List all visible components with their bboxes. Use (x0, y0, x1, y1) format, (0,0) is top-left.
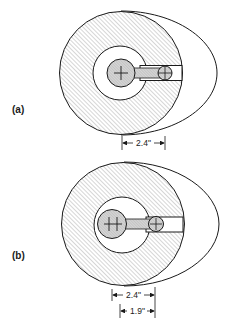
diagram-canvas: 2.4" (a) 2.4" (0, 0, 225, 324)
panel-b: 2.4" 1.9" (b) (12, 162, 219, 318)
dimension-label: 2.4" (136, 138, 151, 148)
dimension-label: 2.4" (126, 290, 141, 300)
panel-a: 2.4" (a) (12, 11, 217, 150)
dimension-label: 1.9" (130, 306, 145, 316)
panel-label-a: (a) (12, 104, 24, 115)
panel-label-b: (b) (12, 250, 25, 261)
